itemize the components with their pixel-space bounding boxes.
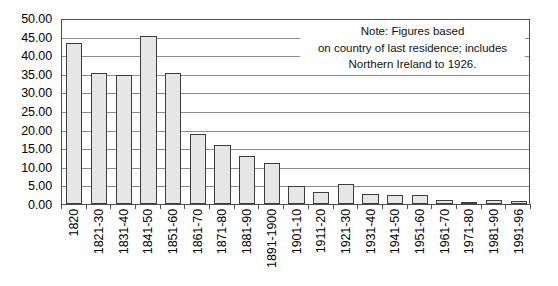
x-axis-tick-label: 1911-20: [320, 209, 334, 253]
bar: [288, 186, 304, 204]
y-axis-tick-label: 25.00: [21, 105, 52, 119]
bar: [313, 192, 329, 204]
x-axis-tick-label: 1921-30: [345, 209, 359, 254]
x-axis-tick-label: 1931-40: [370, 209, 384, 254]
plot-area: [61, 19, 530, 205]
x-axis: 18201821-301831-401841-501851-601861-701…: [61, 209, 530, 286]
x-axis-tick-label: 1820: [73, 209, 87, 236]
y-axis-tick-label: 35.00: [21, 68, 52, 82]
bar: [338, 184, 354, 204]
x-axis-tick-label: 1841-50: [147, 209, 161, 254]
bar: [214, 145, 230, 204]
bar: [165, 73, 181, 204]
y-axis-tick-label: 5.00: [28, 179, 52, 193]
bar: [412, 195, 428, 204]
y-axis-tick-label: 10.00: [21, 161, 52, 175]
x-axis-tick-label: 1971-80: [468, 209, 482, 254]
x-axis-tick-label: 1941-50: [394, 209, 408, 254]
bar: [387, 195, 403, 204]
x-axis-tick-label: 1961-70: [444, 209, 458, 254]
y-axis-tick-label: 50.00: [21, 12, 52, 26]
bar: [140, 36, 156, 204]
x-axis-tick-label: 1851-60: [172, 209, 186, 254]
x-axis-tick-label: 1831-40: [123, 209, 137, 254]
y-axis-tick-label: 20.00: [21, 124, 52, 138]
bar: [91, 73, 107, 204]
x-axis-tick-label: 1901-10: [296, 209, 310, 254]
bar: [239, 156, 255, 204]
bar: [116, 75, 132, 204]
x-axis-tick-label: 1821-30: [98, 209, 112, 254]
bar: [362, 194, 378, 204]
x-axis-tick-label: 1861-70: [197, 209, 211, 254]
y-axis-tick-label: 15.00: [21, 142, 52, 156]
bar: [66, 43, 82, 204]
x-axis-tick-label: 1881-90: [246, 209, 260, 254]
x-axis-tick-label: 1991-96: [518, 209, 532, 254]
x-axis-tick-label: 1981-90: [493, 209, 507, 254]
y-axis-tick-label: 0.00: [28, 198, 52, 212]
y-axis-tick-label: 40.00: [21, 49, 52, 63]
x-axis-tick-label: 1871-80: [221, 209, 235, 254]
x-axis-tick-label: 1891-1900: [271, 209, 285, 268]
y-axis-tick-label: 45.00: [21, 31, 52, 45]
bar: [190, 134, 206, 204]
y-axis: 50.0045.0040.0035.0030.0025.0020.0015.00…: [0, 0, 57, 286]
y-axis-tick-label: 30.00: [21, 86, 52, 100]
bars-group: [62, 20, 529, 204]
x-axis-tick-label: 1951-60: [419, 209, 433, 254]
bar-chart: 50.0045.0040.0035.0030.0025.0020.0015.00…: [0, 0, 558, 286]
bar: [264, 163, 280, 204]
